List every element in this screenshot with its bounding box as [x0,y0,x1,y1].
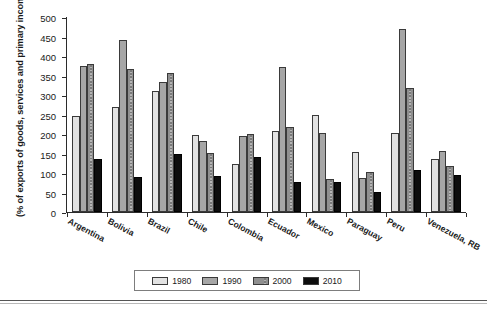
bar-group [346,17,386,212]
bar [406,88,413,212]
bar-group [107,17,147,212]
bar-group [147,17,187,212]
category-label: Brazil [146,216,171,236]
y-axis-tick-label: 350 [40,71,56,82]
bar [239,136,246,212]
footer-rule [0,300,487,301]
bar-groups [67,17,466,212]
y-axis-tick: 400 [62,57,66,58]
bar [312,115,319,212]
legend-item[interactable]: 1980 [152,276,191,286]
y-axis-tick: 450 [62,38,66,39]
y-axis-tick-label: 250 [40,110,56,121]
bar [431,159,438,212]
bar [87,64,94,212]
bar [167,73,174,212]
bar-group [386,17,426,212]
legend-swatch-icon [202,277,218,285]
y-axis-tick-label: 500 [40,13,56,24]
bar [80,66,87,212]
category-label: Peru [385,216,407,234]
bar [94,159,101,212]
y-axis-tick-label: 0 [51,208,56,219]
y-axis-title-wrapper: (% of exports of goods, services and pri… [2,14,40,219]
y-axis-tick-label: 150 [40,149,56,160]
category-label: Venezuela, RB [425,216,482,252]
category-label: Chile [186,216,209,235]
category-labels: ArgentinaBoliviaBrazilChileColombiaEcuad… [66,216,466,272]
bar-group [67,17,107,212]
category-label: Argentina [66,216,106,244]
bar [119,40,126,212]
bar [199,141,206,212]
bar [232,164,239,212]
bar-group [227,17,267,212]
bar [374,192,381,212]
category-label: Bolivia [106,216,136,238]
bar [399,29,406,212]
y-axis-title: (% of exports of goods, services and pri… [15,17,27,217]
bar [279,67,286,212]
bar [334,182,341,212]
x-axis-tick [466,213,467,217]
bar [152,91,159,212]
y-axis-tick: 250 [62,116,66,117]
category-label: Ecuador [266,216,301,241]
bar [272,131,279,213]
bar-group [187,17,227,212]
bar [112,107,119,212]
bar-group [306,17,346,212]
bar [391,133,398,212]
legend-swatch-icon [253,277,269,285]
bar [352,152,359,212]
bar [72,116,79,212]
bar [134,177,141,212]
y-axis-tick: 350 [62,77,66,78]
y-axis-tick: 50 [62,194,66,195]
bar [214,176,221,212]
legend-swatch-icon [303,277,319,285]
bar [286,127,293,212]
bar-group [426,17,466,212]
y-axis-tick-label: 50 [45,188,56,199]
y-axis-tick: 300 [62,96,66,97]
y-axis-tick-label: 200 [40,130,56,141]
bar-group [267,17,307,212]
y-axis-tick-label: 450 [40,32,56,43]
plot-area: 050100150200250300350400450500 [66,17,466,213]
y-axis-tick-label: 300 [40,91,56,102]
legend-label: 1980 [172,276,191,286]
bar [174,154,181,212]
bar [319,133,326,212]
legend-label: 1990 [222,276,241,286]
bar [127,69,134,212]
bar [159,82,166,212]
y-axis-tick: 100 [62,174,66,175]
y-axis-tick: 500 [62,18,66,19]
bar [414,170,421,212]
y-axis-tick: 200 [62,135,66,136]
category-label: Mexico [306,216,336,239]
legend-label: 2000 [273,276,292,286]
bar [294,182,301,212]
bar [446,166,453,212]
bar [326,179,333,212]
category-label: Paraguay [346,216,385,243]
y-axis-tick-label: 400 [40,52,56,63]
bar [454,175,461,212]
chart-figure: (% of exports of goods, services and pri… [0,0,487,312]
legend-item[interactable]: 2010 [303,276,342,286]
legend-item[interactable]: 2000 [253,276,292,286]
bar [207,153,214,212]
chart-legend: 1980199020002010 [134,270,360,291]
bar [254,157,261,212]
y-axis-tick: 150 [62,155,66,156]
footer-rule-secondary [0,303,487,304]
y-axis-tick-label: 100 [40,169,56,180]
legend-label: 2010 [323,276,342,286]
bar [192,135,199,212]
bar [439,151,446,212]
bar [366,172,373,212]
category-label: Colombia [226,216,265,243]
legend-item[interactable]: 1990 [202,276,241,286]
